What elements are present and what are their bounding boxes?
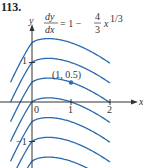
y-axis-label: y xyxy=(28,15,34,26)
solution-curve xyxy=(11,98,110,142)
slope-field-chart: y x 0 1 2 1 −1 dy dx = 1 − 4 3 x 1/3 (1,… xyxy=(0,0,143,168)
eq-numerator: dy xyxy=(45,11,55,22)
eq-rhs-prefix: = 1 − xyxy=(60,18,82,29)
solution-curve xyxy=(11,78,110,122)
point-label: (1, 0.5) xyxy=(52,69,81,81)
eq-frac-num: 4 xyxy=(95,11,100,22)
solution-curve xyxy=(11,157,110,168)
x-axis-label: x xyxy=(138,96,143,107)
eq-frac-den: 3 xyxy=(95,24,100,35)
highlight-point xyxy=(69,80,73,84)
eq-var: x xyxy=(103,18,109,29)
y-tick-label-neg1: −1 xyxy=(16,136,27,147)
x-axis-arrow-icon xyxy=(131,100,138,105)
equation: dy dx = 1 − 4 3 x 1/3 xyxy=(44,11,123,35)
eq-denominator: dx xyxy=(45,24,55,35)
x-tick-label-2: 2 xyxy=(107,104,112,115)
x-tick-label-0: 0 xyxy=(34,104,39,115)
y-tick-label-1: 1 xyxy=(22,55,27,66)
eq-exponent: 1/3 xyxy=(110,13,123,24)
x-tick-label-1: 1 xyxy=(68,104,73,115)
